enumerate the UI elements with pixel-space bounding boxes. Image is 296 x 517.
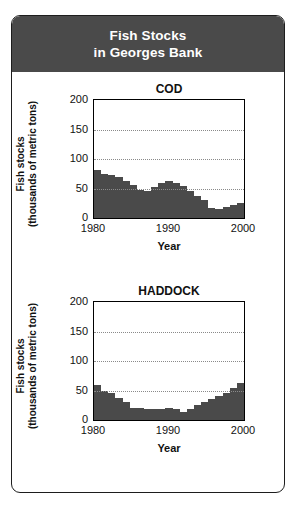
chart-haddock: HADDOCK Fish stocks (thousands of metric… — [12, 284, 285, 484]
y-tick-label: 200 — [70, 295, 88, 307]
chart-haddock-plot-wrap: 050100150200 198019902000 — [93, 301, 245, 421]
bar — [115, 177, 122, 218]
header-title-line1: Fish Stocks — [110, 27, 187, 44]
chart-haddock-x-axis-label: Year — [93, 442, 245, 454]
chart-cod-y-axis-label: Fish stocks (thousands of metric tons) — [18, 98, 36, 230]
bar — [130, 408, 137, 420]
bar — [180, 186, 187, 218]
bar — [130, 185, 137, 218]
bar — [123, 181, 130, 218]
x-tick-label: 2000 — [231, 424, 255, 436]
y-tick-label: 100 — [70, 152, 88, 164]
infographic-card: Fish Stocks in Georges Bank COD Fish sto… — [11, 15, 285, 493]
bar — [215, 209, 222, 218]
bar — [201, 402, 208, 420]
gridline — [94, 130, 244, 131]
chart-cod-plot-wrap: 050100150200 198019902000 — [93, 99, 245, 219]
gridline — [94, 332, 244, 333]
bar — [115, 398, 122, 420]
y-tick-label: 150 — [70, 325, 88, 337]
y-axis-label-line1: Fish stocks — [15, 136, 26, 191]
x-tick-label: 1980 — [81, 222, 105, 234]
bar — [165, 408, 172, 420]
bar — [137, 190, 144, 218]
bar — [101, 174, 108, 218]
gridline — [94, 361, 244, 362]
bar — [180, 412, 187, 420]
bar — [187, 409, 194, 420]
bar — [194, 405, 201, 420]
bar — [237, 203, 244, 218]
bar — [223, 207, 230, 218]
chart-cod-plot-area — [93, 99, 245, 219]
gridline — [94, 189, 244, 190]
bar — [108, 175, 115, 218]
chart-cod: COD Fish stocks (thousands of metric ton… — [12, 82, 285, 272]
bar — [108, 393, 115, 420]
chart-haddock-y-axis-label: Fish stocks (thousands of metric tons) — [18, 300, 36, 432]
y-tick-label: 150 — [70, 123, 88, 135]
y-axis-label-line2: (thousands of metric tons) — [27, 303, 39, 429]
bar — [230, 205, 237, 218]
y-tick-label: 50 — [76, 182, 88, 194]
card-header: Fish Stocks in Georges Bank — [12, 16, 284, 72]
bar — [137, 408, 144, 420]
y-tick-label: 100 — [70, 354, 88, 366]
y-tick-label: 200 — [70, 93, 88, 105]
y-axis-label-line2: (thousands of metric tons) — [27, 101, 39, 227]
bar — [123, 402, 130, 420]
chart-haddock-title: HADDOCK — [12, 284, 285, 298]
y-tick-label: 50 — [76, 384, 88, 396]
chart-cod-title: COD — [12, 82, 285, 96]
bar — [151, 409, 158, 420]
bar — [201, 200, 208, 218]
chart-cod-x-axis-label: Year — [93, 240, 245, 252]
y-axis-label-line1: Fish stocks — [15, 338, 26, 393]
bar — [165, 181, 172, 218]
bar — [144, 191, 151, 218]
bar — [215, 396, 222, 420]
x-tick-label: 1990 — [156, 424, 180, 436]
bar — [230, 388, 237, 420]
x-tick-label: 1990 — [156, 222, 180, 234]
bar — [194, 196, 201, 218]
bar — [158, 409, 165, 420]
bar — [151, 187, 158, 218]
header-title-line2: in Georges Bank — [94, 44, 203, 61]
bar — [208, 399, 215, 420]
chart-haddock-plot-area — [93, 301, 245, 421]
gridline — [94, 391, 244, 392]
bar — [144, 409, 151, 420]
bar — [208, 208, 215, 218]
bar — [223, 393, 230, 420]
bar — [94, 170, 101, 218]
gridline — [94, 159, 244, 160]
bar — [173, 409, 180, 420]
bar — [101, 391, 108, 420]
bar — [237, 383, 244, 420]
x-tick-label: 2000 — [231, 222, 255, 234]
x-tick-label: 1980 — [81, 424, 105, 436]
bar — [187, 191, 194, 218]
